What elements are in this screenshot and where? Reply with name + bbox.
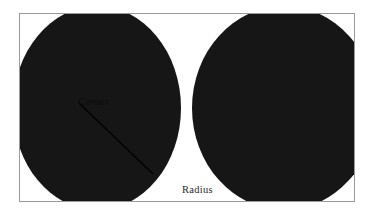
right-circle-shape [192, 14, 354, 201]
radius-label: Radius [182, 185, 213, 196]
left-circle-shape [20, 14, 181, 201]
center-label: Center [78, 96, 109, 107]
figure-frame: Center Radius [19, 13, 355, 202]
shape-canvas: Center Radius [20, 14, 354, 201]
figure-page: Center Radius [0, 0, 373, 216]
